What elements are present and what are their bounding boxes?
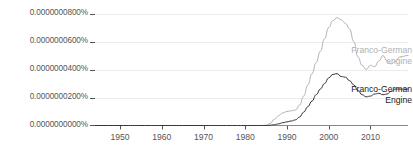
x-tick-label: 2010	[361, 133, 380, 142]
y-tick-label: 0.0000000400%	[0, 65, 88, 75]
x-tick-marks	[121, 126, 371, 130]
x-tick-label: 1990	[277, 133, 296, 142]
y-tick-label-text: 0.0000000200%	[30, 93, 88, 101]
series-label-line: Franco-German	[336, 84, 412, 95]
series-label-line: engine	[336, 56, 412, 67]
series-label-line: Franco-German	[336, 45, 412, 56]
x-tick-label: 2000	[319, 133, 338, 142]
ngram-chart: 0.0000000000%0.0000000200%0.0000000400%0…	[0, 0, 413, 149]
x-tick-label: 1980	[236, 133, 255, 142]
y-tick-label-text: 0.0000000000%	[30, 121, 88, 129]
y-tick-label: 0.0000000000%	[0, 121, 88, 131]
y-tick-label-text: 0.0000000600%	[30, 37, 88, 45]
y-tick-label-text: 0.0000000400%	[30, 65, 88, 73]
y-tick-label: 0.0000000600%	[0, 37, 88, 47]
x-tick-label: 1970	[194, 133, 213, 142]
y-tick-label-text: 0.0000000800%	[30, 9, 88, 17]
y-tick-label: 0.0000000200%	[0, 93, 88, 103]
x-tick-label: 1950	[110, 133, 129, 142]
y-tick-marks	[90, 15, 95, 126]
series-label-franco-german-engine-lowercase[interactable]: Franco-Germanengine	[336, 45, 412, 66]
series-lines	[95, 18, 408, 126]
series-line-0[interactable]	[95, 18, 408, 126]
x-tick-label: 1960	[152, 133, 171, 142]
series-label-line: Engine	[336, 95, 412, 106]
y-tick-label: 0.0000000800%	[0, 9, 88, 19]
series-label-franco-german-engine-capitalized[interactable]: Franco-GermanEngine	[336, 84, 412, 105]
